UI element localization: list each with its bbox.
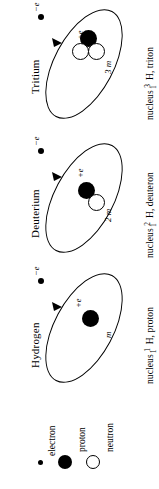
panel-title-tritium: Tritium [30,59,41,94]
electron-orbit-tritium [29,0,138,131]
legend-label-electron: electron [48,425,58,456]
nucleus-caption-prefix-deuterium: nucleus [145,228,155,258]
nucleus-mass-label-deuterium: 2 m [104,209,113,222]
nucleus-caption-prefix-hydrogen: nucleus [145,354,155,384]
neutron-marker-icon [86,455,100,469]
orbit-direction-arrow-icon [50,36,66,52]
nucleus-caption-prefix-tritium: nucleus [145,90,155,120]
diagram-canvas: Tritium −e +e 3 m nucleus 31H, triton De… [0,0,159,489]
panel-title-deuterium: Deuterium [30,189,41,238]
nucleus-caption-deuterium: nucleus 21H, deuteron [146,172,156,258]
electron-particle-hydrogen [38,278,44,284]
nucleus-charge-label-hydrogen: +e [74,298,83,308]
electron-charge-label-tritium: −e [32,2,41,12]
electron-charge-label-deuterium: −e [32,136,41,146]
isotope-symbol-tritium: H, [145,71,155,80]
nucleus-charge-label-deuterium: +e [76,168,85,178]
legend: electron proton neutron [0,392,159,489]
electron-charge-label-hydrogen: −e [32,266,41,276]
isotope-symbol-hydrogen: H, [145,335,155,344]
proton-particle-hydrogen [82,310,99,327]
electron-marker-icon [38,460,43,465]
orbit-direction-arrow-icon [50,300,66,316]
legend-label-neutron: neutron [106,423,116,452]
orbit-direction-arrow-icon [50,170,66,186]
isotope-atomic-number-tritium: 1 [149,85,158,89]
proton-marker-icon [58,455,72,469]
legend-label-proton: proton [78,427,88,452]
nucleus-caption-hydrogen: nucleus 11H, proton [146,307,156,384]
isotope-symbol-deuterium: H, [145,209,155,218]
nucleus-name-deuterium: deuteron [145,172,155,206]
panel-title-hydrogen: Hydrogen [30,322,41,368]
electron-particle-tritium [38,14,44,20]
isotope-panel-hydrogen: Hydrogen −e +e m nucleus 11H, proton [0,260,159,390]
nucleus-mass-label-hydrogen: m [104,332,113,339]
neutron-particle-tritium-1 [72,43,89,60]
nucleus-name-hydrogen: proton [145,307,155,332]
isotope-panel-tritium: Tritium −e +e 3 m nucleus 31H, triton [0,0,159,126]
isotope-atomic-number-hydrogen: 1 [149,349,158,353]
electron-orbit-hydrogen [29,261,138,395]
nucleus-mass-label-tritium: 3 m [104,61,113,74]
nucleus-name-tritium: triton [145,47,155,68]
isotope-atomic-number-deuterium: 1 [149,223,158,227]
nucleus-caption-tritium: nucleus 31H, triton [146,47,156,120]
isotope-panel-deuterium: Deuterium −e +e 2 m nucleus 21H, deutero… [0,130,159,260]
neutron-particle-tritium-2 [88,43,105,60]
electron-particle-deuterium [38,148,44,154]
